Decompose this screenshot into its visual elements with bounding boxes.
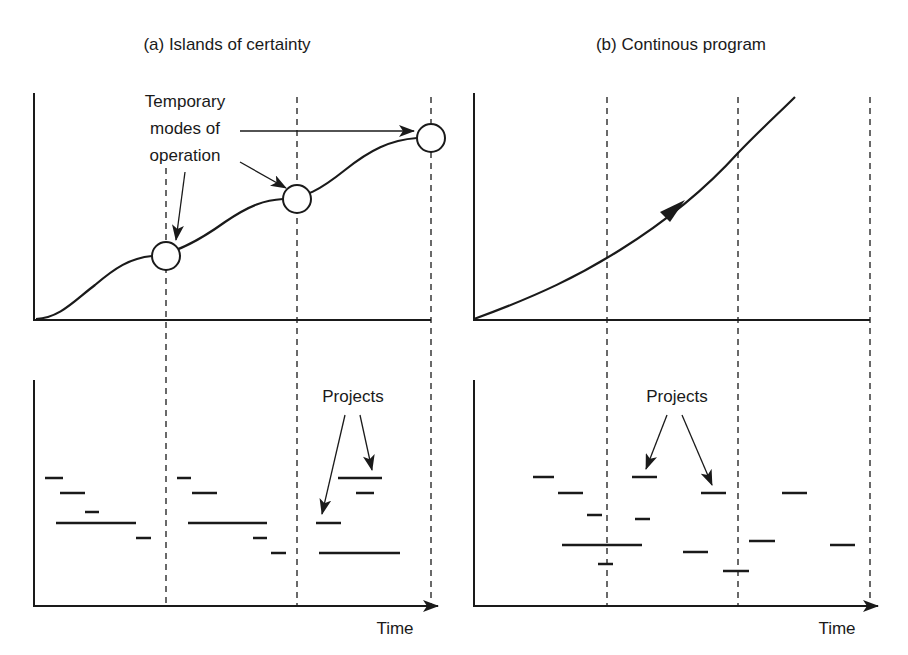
annotation-line-1: Temporary [145,92,226,111]
diagram-canvas: (a) Islands of certainty (b) Continous p… [0,0,908,655]
annotation-arrow-1 [176,172,185,240]
projects-label-a: Projects [322,387,383,406]
projects-arrow-a2 [360,415,372,470]
panel-a-title: (a) Islands of certainty [143,35,311,54]
direction-arrow-icon [660,200,685,222]
panel-b-top-chart [473,93,870,606]
mode-marker-2 [283,185,311,213]
annotation-line-2: modes of [150,119,220,138]
time-axis-label-b: Time [818,619,855,638]
time-axis-label-a: Time [376,619,413,638]
projects-arrow-b2 [682,415,712,485]
panel-b-bottom-chart: Time Projects [473,380,878,638]
annotation-line-3: operation [150,146,221,165]
panel-a-top-chart: Temporary modes of operation [33,92,445,606]
annotation-arrow-2 [240,162,286,188]
panel-a-bottom-chart: Time Projects [33,380,438,638]
projects-arrow-b1 [646,415,667,469]
mode-marker-3 [417,124,445,152]
projects-label-b: Projects [646,387,707,406]
mode-marker-1 [152,242,180,270]
panel-b-title: (b) Continous program [596,35,766,54]
projects-arrow-a1 [322,415,345,514]
